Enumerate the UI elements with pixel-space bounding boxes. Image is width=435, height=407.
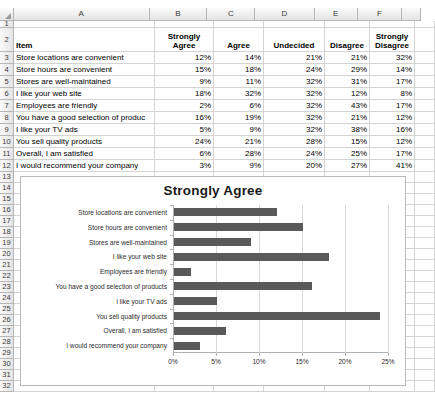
cell-empty-r22-c6[interactable] — [415, 271, 435, 282]
cell-strongly-disagree-6[interactable]: 16% — [370, 124, 415, 136]
cell-strongly-disagree-9[interactable]: 41% — [370, 160, 415, 172]
column-header-a[interactable]: A — [14, 8, 150, 21]
table-row[interactable]: Store hours are convenient15%18%24%29%14… — [14, 64, 435, 76]
cell-disagree-8[interactable]: 25% — [325, 148, 370, 160]
header-cell-item[interactable]: Item — [14, 28, 155, 52]
row-header-27[interactable]: 27 — [0, 326, 14, 337]
chart-bar-5[interactable] — [174, 282, 312, 290]
cell-empty-r26-c6[interactable] — [415, 315, 435, 326]
chart-bar-8[interactable] — [174, 327, 226, 335]
table-row[interactable]: ItemStronglyAgreeAgreeUndecidedDisagreeS… — [14, 28, 435, 52]
cell-item-0[interactable]: Store locations are convenient — [14, 52, 155, 64]
row-header-9[interactable]: 9 — [0, 124, 14, 136]
column-header-d[interactable]: D — [255, 8, 314, 21]
cell-undecided-9[interactable]: 20% — [264, 160, 325, 172]
cell-disagree-1[interactable]: 29% — [325, 64, 370, 76]
cell-empty-r13-c6[interactable] — [415, 172, 435, 183]
cell-blank-row1-5[interactable] — [370, 21, 415, 28]
cell-empty-r27-c6[interactable] — [415, 326, 435, 337]
cell-strongly-agree-6[interactable]: 5% — [155, 124, 214, 136]
chart-bar-1[interactable] — [174, 223, 303, 231]
cell-item-2[interactable]: Stores are well-maintained — [14, 76, 155, 88]
row-header-29[interactable]: 29 — [0, 348, 14, 359]
cell-blank-g-5[interactable] — [415, 112, 435, 124]
cell-blank-row1-0[interactable] — [14, 21, 155, 28]
chart-object[interactable]: Strongly Agree 0%5%10%15%20%25%Store loc… — [20, 176, 406, 386]
row-header-8[interactable]: 8 — [0, 112, 14, 124]
cell-undecided-5[interactable]: 32% — [264, 112, 325, 124]
cell-agree-9[interactable]: 9% — [214, 160, 264, 172]
cell-agree-3[interactable]: 32% — [214, 88, 264, 100]
cell-empty-r16-c6[interactable] — [415, 205, 435, 216]
cell-agree-5[interactable]: 19% — [214, 112, 264, 124]
cell-blank-g-6[interactable] — [415, 124, 435, 136]
cell-strongly-disagree-8[interactable]: 17% — [370, 148, 415, 160]
cell-agree-7[interactable]: 21% — [214, 136, 264, 148]
cell-item-1[interactable]: Store hours are convenient — [14, 64, 155, 76]
row-header-12[interactable]: 12 — [0, 160, 14, 172]
row-header-13[interactable]: 13 — [0, 172, 14, 183]
cell-empty-r32-c6[interactable] — [415, 381, 435, 392]
cell-strongly-agree-5[interactable]: 16% — [155, 112, 214, 124]
cell-undecided-2[interactable]: 32% — [264, 76, 325, 88]
column-header-e[interactable]: E — [315, 8, 359, 21]
cell-item-7[interactable]: You sell quality products — [14, 136, 155, 148]
table-row[interactable]: I like your web site18%32%32%12%8% — [14, 88, 435, 100]
cell-blank-g-8[interactable] — [415, 148, 435, 160]
row-header-32[interactable]: 32 — [0, 381, 14, 392]
chart-bar-3[interactable] — [174, 253, 329, 261]
row-header-15[interactable]: 15 — [0, 194, 14, 205]
cell-blank-row1-1[interactable] — [155, 21, 214, 28]
cell-empty-r18-c6[interactable] — [415, 227, 435, 238]
cell-undecided-1[interactable]: 24% — [264, 64, 325, 76]
row-header-17[interactable]: 17 — [0, 216, 14, 227]
table-row[interactable]: I like your TV ads5%9%32%38%16% — [14, 124, 435, 136]
row-header-14[interactable]: 14 — [0, 183, 14, 194]
cell-disagree-7[interactable]: 15% — [325, 136, 370, 148]
table-row[interactable]: Employees are friendly2%6%32%43%17% — [14, 100, 435, 112]
chart-bar-6[interactable] — [174, 297, 217, 305]
cell-strongly-agree-2[interactable]: 9% — [155, 76, 214, 88]
cell-empty-r28-c6[interactable] — [415, 337, 435, 348]
cell-undecided-8[interactable]: 24% — [264, 148, 325, 160]
column-header-b[interactable]: B — [150, 8, 207, 21]
row-header-19[interactable]: 19 — [0, 238, 14, 249]
header-cell-undecided[interactable]: Undecided — [264, 28, 325, 52]
cell-empty-r19-c6[interactable] — [415, 238, 435, 249]
cell-item-3[interactable]: I like your web site — [14, 88, 155, 100]
table-row[interactable]: You have a good selection of produc16%19… — [14, 112, 435, 124]
cell-disagree-0[interactable]: 21% — [325, 52, 370, 64]
cell-strongly-agree-4[interactable]: 2% — [155, 100, 214, 112]
cell-strongly-agree-1[interactable]: 15% — [155, 64, 214, 76]
cell-agree-1[interactable]: 18% — [214, 64, 264, 76]
cell-item-4[interactable]: Employees are friendly — [14, 100, 155, 112]
row-header-23[interactable]: 23 — [0, 282, 14, 293]
header-cell-agree[interactable]: Agree — [214, 28, 264, 52]
row-header-16[interactable]: 16 — [0, 205, 14, 216]
row-header-11[interactable]: 11 — [0, 148, 14, 160]
cell-item-5[interactable]: You have a good selection of produc — [14, 112, 155, 124]
cell-blank-row1-2[interactable] — [214, 21, 264, 28]
cell-blank-row2-g[interactable] — [415, 28, 435, 52]
cell-strongly-disagree-3[interactable]: 8% — [370, 88, 415, 100]
cell-agree-6[interactable]: 9% — [214, 124, 264, 136]
row-header-18[interactable]: 18 — [0, 227, 14, 238]
row-header-30[interactable]: 30 — [0, 359, 14, 370]
chart-bar-9[interactable] — [174, 342, 200, 350]
cell-blank-row1-3[interactable] — [264, 21, 325, 28]
row-header-25[interactable]: 25 — [0, 304, 14, 315]
row-header-5[interactable]: 5 — [0, 76, 14, 88]
cell-blank-g-1[interactable] — [415, 64, 435, 76]
cell-disagree-2[interactable]: 31% — [325, 76, 370, 88]
cell-blank-g-4[interactable] — [415, 100, 435, 112]
chart-bar-7[interactable] — [174, 312, 380, 320]
row-header-10[interactable]: 10 — [0, 136, 14, 148]
cell-disagree-3[interactable]: 12% — [325, 88, 370, 100]
header-cell-strongly-disagree[interactable]: StronglyDisagree — [370, 28, 415, 52]
row-header-7[interactable]: 7 — [0, 100, 14, 112]
cell-strongly-agree-7[interactable]: 24% — [155, 136, 214, 148]
cell-agree-8[interactable]: 28% — [214, 148, 264, 160]
cell-empty-r23-c6[interactable] — [415, 282, 435, 293]
row-header-22[interactable]: 22 — [0, 271, 14, 282]
cell-empty-r24-c6[interactable] — [415, 293, 435, 304]
